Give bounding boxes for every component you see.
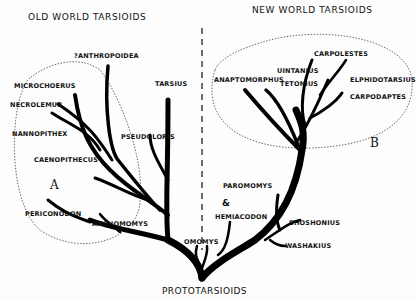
tree-branches	[0, 0, 418, 300]
new-world-header: NEW WORLD TARSIOIDS	[252, 5, 373, 15]
label-carpodaptes: Carpodaptes	[350, 93, 406, 101]
group-a-label: A	[50, 178, 59, 192]
label-tetonius: Tetonius	[280, 80, 318, 88]
label-tarsius: Tarsius	[155, 80, 187, 88]
label-elphidotarsius: Elphidotarsius	[350, 76, 416, 84]
group-b-label: B	[370, 136, 379, 150]
label-necrolemur: Necrolemur	[10, 101, 63, 109]
label-anaptomorphus: Anaptomorphus	[214, 76, 284, 84]
label-paromomys: Paromomys	[223, 182, 272, 190]
old-world-header: OLD WORLD TARSIOIDS	[28, 12, 146, 22]
label-washakius: Washakius	[285, 242, 331, 250]
label-pseudoloris: Pseudoloris	[121, 133, 175, 141]
label-omomys: Omomys	[184, 238, 219, 246]
label-microchoerus: Microchoerus	[14, 82, 76, 90]
label-hemiacodon: Hemiacodon	[215, 213, 267, 221]
label-anchomomys: Anchomomys	[92, 220, 148, 228]
label-uintanius: Uintanius	[277, 67, 319, 75]
label-anthropoidea: ?Anthropoidea	[74, 52, 139, 60]
label-nannopithex: Nannopithex	[12, 130, 68, 138]
label-shoshonius: Shoshonius	[289, 219, 340, 227]
root-label: PROTOTARSIOIDS	[162, 286, 247, 296]
label-periconodon: Periconodon	[25, 210, 81, 218]
label-carpolestes: Carpolestes	[314, 50, 368, 58]
phylogeny-diagram: OLD WORLD TARSIOIDS NEW WORLD TARSIOIDS …	[0, 0, 418, 300]
label-caenopithecus: Caenopithecus	[34, 156, 98, 164]
label-ampersand: &	[222, 198, 230, 208]
